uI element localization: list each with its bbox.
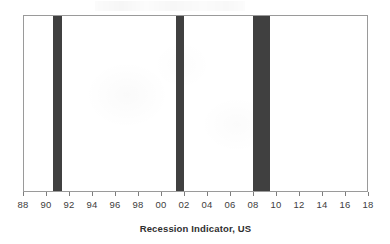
x-axis-tick-label: 10 <box>270 198 281 211</box>
paper-texture <box>24 16 367 191</box>
x-axis-tick-mark <box>230 192 231 196</box>
x-axis-tick-mark <box>322 192 323 196</box>
x-axis-tick-label: 00 <box>155 198 166 211</box>
x-axis-tick-label: 96 <box>109 198 120 211</box>
x-axis-tick-mark <box>184 192 185 196</box>
x-axis-tick-mark <box>368 192 369 196</box>
x-axis-tick-mark <box>138 192 139 196</box>
x-axis-tick-label: 04 <box>201 198 212 211</box>
x-axis-tick-label: 12 <box>293 198 304 211</box>
x-axis-tick-mark <box>345 192 346 196</box>
x-axis-tick-label: 98 <box>132 198 143 211</box>
x-axis-tick-label: 02 <box>178 198 189 211</box>
x-axis-tick-labels: 88909294969800020406081012141618 <box>23 198 368 212</box>
scan-artifact <box>95 1 245 11</box>
x-axis-tick-label: 16 <box>339 198 350 211</box>
x-axis-tick-mark <box>276 192 277 196</box>
plot-area <box>24 16 367 191</box>
x-axis-tick-mark <box>23 192 24 196</box>
x-axis-tick-label: 88 <box>17 198 28 211</box>
x-axis-tick-label: 08 <box>247 198 258 211</box>
x-axis-tick-mark <box>69 192 70 196</box>
plot-frame <box>23 15 368 192</box>
recession-band <box>176 16 184 191</box>
x-axis-tick-label: 18 <box>362 198 373 211</box>
x-axis-tick-mark <box>253 192 254 196</box>
recession-band <box>253 16 270 191</box>
x-axis-tick-mark <box>207 192 208 196</box>
x-axis-tick-label: 14 <box>316 198 327 211</box>
recession-band <box>53 16 62 191</box>
x-axis-tick-label: 90 <box>40 198 51 211</box>
x-axis-tick-label: 92 <box>63 198 74 211</box>
x-axis-tick-mark <box>46 192 47 196</box>
x-axis-tick-mark <box>161 192 162 196</box>
x-axis-tick-mark <box>92 192 93 196</box>
x-axis-tick-label: 06 <box>224 198 235 211</box>
x-axis-tick-label: 94 <box>86 198 97 211</box>
recession-indicator-chart: 88909294969800020406081012141618 Recessi… <box>0 0 390 244</box>
x-axis-tick-mark <box>299 192 300 196</box>
x-axis-tick-marks <box>23 192 368 197</box>
x-axis-tick-mark <box>115 192 116 196</box>
x-axis-title: Recession Indicator, US <box>23 222 368 235</box>
